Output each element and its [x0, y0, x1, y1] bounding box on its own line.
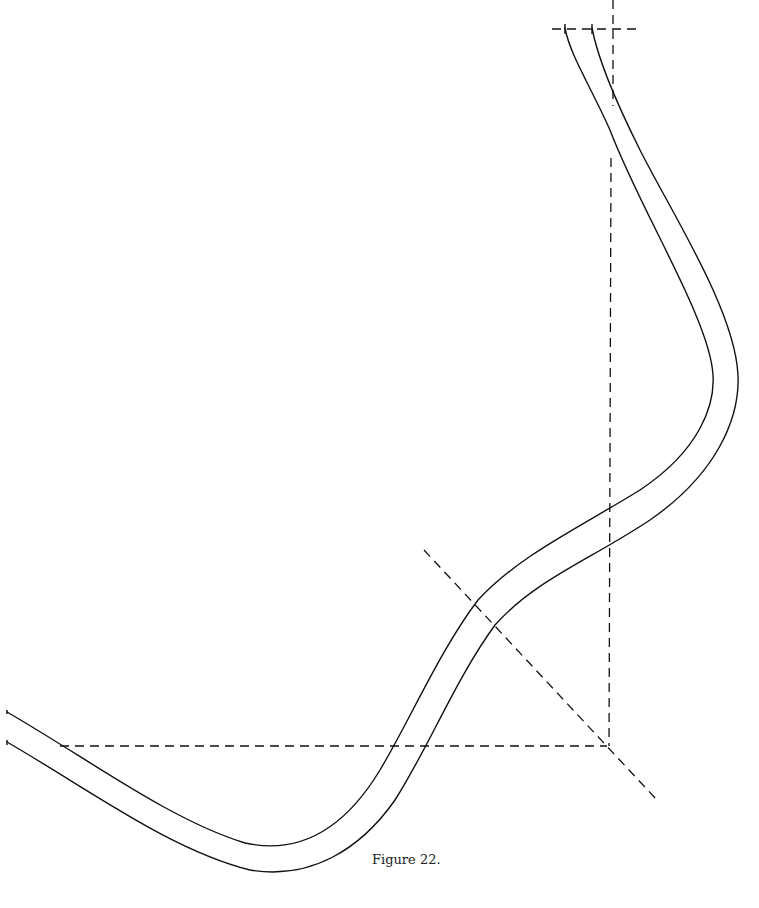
- figure-caption: Figure 22.: [372, 852, 441, 867]
- outer-edge-curve: [7, 28, 738, 872]
- figure-diagram: [0, 0, 759, 908]
- band-curves: [7, 28, 738, 872]
- right-vertical-dashed-line: [609, 158, 611, 746]
- endpoint-ticks: [7, 24, 592, 745]
- diagonal-dashed-line: [424, 550, 657, 800]
- inner-edge-curve: [7, 28, 713, 846]
- construction-lines: [60, 0, 657, 800]
